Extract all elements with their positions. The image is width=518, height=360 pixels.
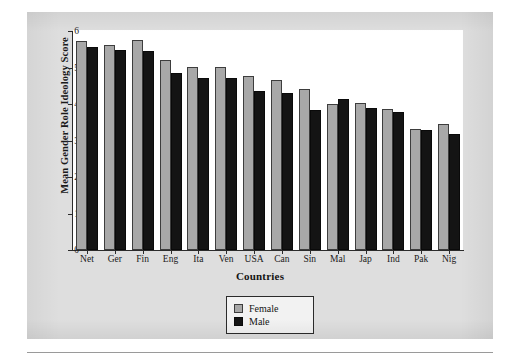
bar-group-can [271,31,293,250]
bar-ita-male [198,78,209,250]
legend-item-female: Female [234,302,305,315]
bar-ven-male [226,78,237,250]
bar-ven-female [215,67,226,250]
bar-group-usa [243,31,265,250]
bar-ind-male [393,112,404,250]
x-axis-label-nig: Nig [429,254,469,264]
bar-ind-female [382,109,393,250]
bars-container [73,31,463,250]
page-horizontal-rule [27,352,493,353]
bar-fin-female [132,40,143,250]
female-swatch-icon [234,304,243,313]
bar-eng-female [160,60,171,250]
bar-group-ger [104,31,126,250]
x-axis-title: Countries [27,270,493,282]
bar-jap-male [366,108,377,250]
bar-can-female [271,80,282,250]
bar-ger-male [115,50,126,250]
bar-group-ita [187,31,209,250]
legend-label-female: Female [249,303,278,314]
bar-net-female [76,41,87,250]
bar-group-ind [382,31,404,250]
bar-net-male [87,47,98,250]
bar-group-jap [355,31,377,250]
bar-eng-male [171,73,182,250]
bar-group-mal [327,31,349,250]
bar-group-fin [132,31,154,250]
bar-usa-male [254,91,265,250]
male-swatch-icon [234,317,243,326]
bar-mal-female [327,104,338,250]
bar-ger-female [104,45,115,250]
bar-nig-female [438,124,449,250]
bar-group-pak [410,31,432,250]
bar-group-net [76,31,98,250]
bar-sin-male [310,110,321,250]
bar-nig-male [449,134,460,250]
bar-jap-female [355,103,366,250]
figure-panel: Mean Gender Role Ideology Score 6543210 … [27,12,493,339]
bar-usa-female [243,76,254,250]
bar-can-male [282,93,293,250]
y-axis-title: Mean Gender Role Ideology Score [59,16,70,216]
bar-group-ven [215,31,237,250]
chart-legend: Female Male [226,296,314,334]
x-axis-line [72,250,464,251]
bar-pak-male [421,130,432,250]
bar-fin-male [143,51,154,250]
bar-sin-female [299,89,310,250]
bar-group-sin [299,31,321,250]
bar-group-nig [438,31,460,250]
legend-label-male: Male [249,316,270,327]
y-tick-mark-0 [68,250,73,251]
bar-mal-male [338,99,349,250]
bar-group-eng [160,31,182,250]
bar-ita-female [187,67,198,250]
bar-pak-female [410,129,421,250]
legend-item-male: Male [234,315,305,328]
bar-chart: Mean Gender Role Ideology Score 6543210 … [27,12,493,262]
